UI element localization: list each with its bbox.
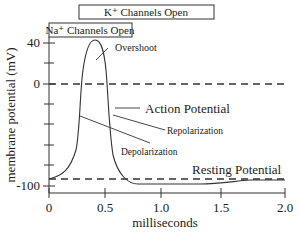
- action-potential-label: Action Potential: [145, 101, 230, 116]
- repolarization-leader: [113, 115, 165, 130]
- na-channels-label: Na⁺ Channels Open: [46, 24, 135, 36]
- overshoot-label: Overshoot: [115, 42, 157, 53]
- action-potential-diagram: K⁺ Channels Open Na⁺ Channels Open 40 0 …: [0, 0, 299, 232]
- x-tick-1-0: 1.0: [153, 200, 169, 215]
- k-channels-label: K⁺ Channels Open: [104, 6, 189, 18]
- x-axis-label: milliseconds: [132, 215, 198, 230]
- x-tick-1-5: 1.5: [213, 200, 229, 215]
- depolarization-leader: [80, 116, 150, 143]
- y-axis-label: membrane potential (mV): [3, 47, 18, 182]
- y-tick-0: 0: [34, 76, 41, 91]
- repolarization-label: Repolarization: [167, 126, 223, 136]
- y-tick-minus-100: -100: [16, 178, 40, 193]
- x-tick-2-0: 2.0: [277, 200, 293, 215]
- x-tick-0: 0: [46, 200, 53, 215]
- resting-potential-label: Resting Potential: [192, 162, 282, 177]
- depolarization-label: Depolarization: [121, 147, 178, 157]
- y-tick-40: 40: [27, 35, 40, 50]
- x-tick-0-5: 0.5: [97, 200, 113, 215]
